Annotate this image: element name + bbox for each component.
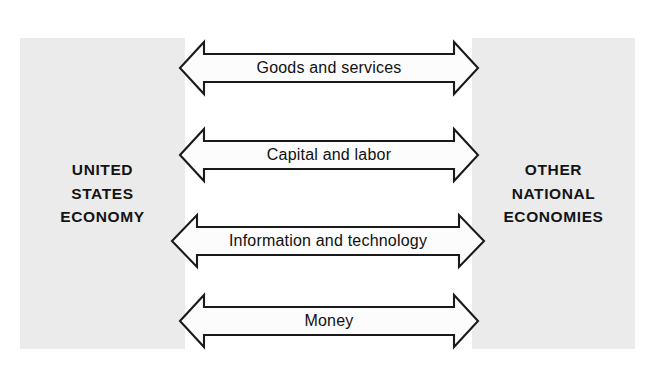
united-states-economy-box: UNITED STATES ECONOMY: [20, 38, 185, 349]
other-national-economies-box: OTHER NATIONAL ECONOMIES: [472, 38, 635, 349]
flow-goods-and-services: Goods and services: [178, 35, 480, 101]
other-national-economies-label: OTHER NATIONAL ECONOMIES: [503, 158, 603, 229]
double-headed-arrow-icon: [178, 122, 480, 188]
flow-information-and-technology: Information and technology: [170, 208, 486, 274]
double-headed-arrow-icon: [178, 35, 480, 101]
flow-capital-and-labor: Capital and labor: [178, 122, 480, 188]
double-headed-arrow-icon: [170, 208, 486, 274]
flow-money: Money: [178, 288, 480, 354]
united-states-economy-label: UNITED STATES ECONOMY: [60, 158, 144, 229]
double-headed-arrow-icon: [178, 288, 480, 354]
economy-flow-diagram: UNITED STATES ECONOMY OTHER NATIONAL ECO…: [0, 0, 655, 376]
